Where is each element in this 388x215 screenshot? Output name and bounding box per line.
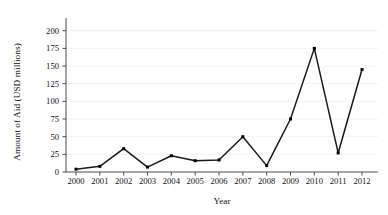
data-point-marker	[289, 118, 292, 121]
chart-figure: 0255075100125150175200 20002001200220032…	[0, 0, 388, 215]
data-point-marker	[75, 168, 78, 171]
y-axis-tick-label: 200	[33, 26, 59, 36]
data-point-marker	[361, 68, 364, 71]
y-axis-tick-label: 50	[33, 132, 59, 142]
x-axis-tick-label: 2012	[345, 176, 379, 186]
data-point-marker	[337, 151, 340, 154]
y-axis-tick-label: 175	[33, 43, 59, 53]
data-point-marker	[218, 158, 221, 161]
y-axis-title: Amount of Aid (USD millions)	[12, 12, 26, 192]
data-point-marker	[265, 164, 268, 167]
y-axis-tick-label: 125	[33, 79, 59, 89]
y-axis-tick-label: 0	[33, 167, 59, 177]
y-axis-tick-label: 150	[33, 61, 59, 71]
data-point-marker	[146, 166, 149, 169]
data-point-marker	[194, 159, 197, 162]
y-axis-tick-label: 25	[33, 149, 59, 159]
data-point-marker	[122, 147, 125, 150]
data-point-marker	[241, 135, 244, 138]
data-point-marker	[98, 165, 101, 168]
series-path	[76, 48, 362, 169]
data-point-marker	[313, 47, 316, 50]
y-axis-tick-label: 75	[33, 114, 59, 124]
y-axis-tick-label: 100	[33, 96, 59, 106]
data-point-marker	[170, 154, 173, 157]
x-axis-title: Year	[66, 196, 378, 206]
